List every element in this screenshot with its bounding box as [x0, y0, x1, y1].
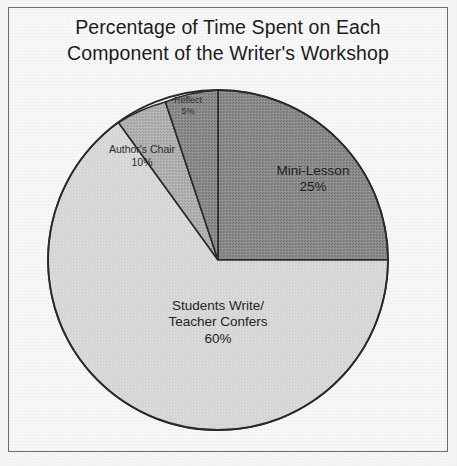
pie-label-students-write-name-2: Teacher Confers: [118, 314, 318, 330]
pie-label-students-write-name-1: Students Write/: [118, 298, 318, 314]
pie-label-students-write: Students Write/ Teacher Confers 60%: [118, 298, 318, 347]
pie-label-authors-chair-name: Author's Chair: [88, 143, 196, 156]
pie-label-reflect-value: 5%: [158, 106, 218, 117]
pie-label-students-write-value: 60%: [118, 331, 318, 347]
chart-figure: Percentage of Time Spent on Each Compone…: [0, 0, 457, 466]
chart-title-line-1: Percentage of Time Spent on Each: [20, 14, 436, 40]
chart-title: Percentage of Time Spent on Each Compone…: [20, 14, 436, 66]
pie-label-mini-lesson: Mini-Lesson 25%: [243, 163, 383, 196]
pie-label-mini-lesson-value: 25%: [243, 179, 383, 195]
chart-title-line-2: Component of the Writer's Workshop: [20, 40, 436, 66]
pie-chart-svg: [46, 88, 390, 432]
pie-label-reflect: Reflect 5%: [158, 95, 218, 117]
pie-label-authors-chair-value: 10%: [88, 156, 196, 169]
pie-chart: [46, 88, 390, 432]
pie-label-mini-lesson-name: Mini-Lesson: [243, 163, 383, 179]
pie-label-authors-chair: Author's Chair 10%: [88, 143, 196, 169]
pie-label-reflect-name: Reflect: [158, 95, 218, 106]
